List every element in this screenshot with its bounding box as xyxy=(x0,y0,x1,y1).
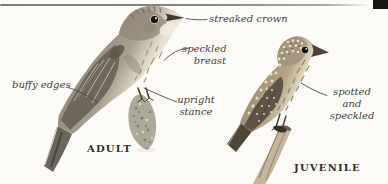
field-guide-plate: streaked crown speckled breast buffy edg… xyxy=(0,0,388,184)
annotation-spotted-and-speckled: spotted and speckled xyxy=(324,86,380,122)
annotation-speckled-breast: speckled breast xyxy=(182,43,226,67)
mossy-stump-illustration xyxy=(128,94,156,152)
caption-adult: ADULT xyxy=(87,143,132,154)
annotation-upright-stance-line1: upright xyxy=(176,94,216,106)
annotation-upright-stance: upright stance xyxy=(176,94,216,118)
adult-eye xyxy=(150,15,158,23)
branch-illustration xyxy=(252,124,292,184)
annotation-buffy-edges: buffy edges xyxy=(12,79,71,91)
leader-line-upright-stance xyxy=(144,88,177,102)
annotation-speckled-breast-line1: speckled xyxy=(182,43,226,55)
adult-tail xyxy=(44,126,72,172)
juvenile-beak xyxy=(311,44,329,57)
juvenile-eye xyxy=(301,46,309,54)
annotation-upright-stance-line2: stance xyxy=(176,106,216,118)
annotation-speckled-breast-line2: breast xyxy=(182,55,226,67)
annotation-spotted-and-speckled-line1: spotted and xyxy=(324,86,380,110)
annotation-spotted-and-speckled-line2: speckled xyxy=(324,110,380,122)
annotation-streaked-crown: streaked crown xyxy=(209,13,288,25)
caption-juvenile: JUVENILE xyxy=(294,162,361,173)
leader-line-streaked-crown xyxy=(186,19,207,20)
